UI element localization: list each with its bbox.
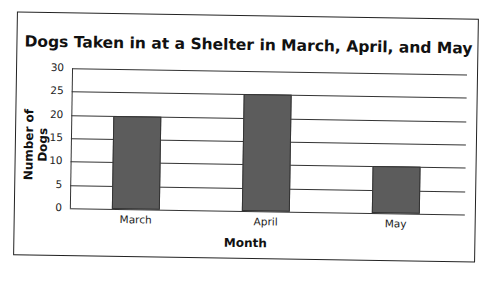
x-tick-march: March [86, 212, 186, 226]
chart-title: Dogs Taken in at a Shelter in March, Apr… [17, 32, 479, 57]
bar-may [372, 166, 421, 213]
bar-march [112, 116, 161, 210]
y-tick-10: 10 [39, 154, 63, 166]
y-tick-15: 15 [39, 131, 63, 143]
y-tick-0: 0 [38, 201, 62, 213]
plot-area: 30 25 20 15 10 5 0 March April May [70, 68, 467, 214]
bar-april [242, 94, 292, 211]
y-tick-20: 20 [39, 107, 63, 119]
x-tick-may: May [346, 217, 446, 231]
y-tick-5: 5 [38, 177, 62, 189]
gridline-30 [72, 68, 467, 75]
y-tick-25: 25 [40, 84, 64, 96]
chart-frame: Dogs Taken in at a Shelter in March, Apr… [13, 11, 479, 262]
x-axis-label: Month [14, 232, 476, 253]
y-tick-30: 30 [40, 61, 64, 73]
x-tick-april: April [216, 215, 316, 229]
